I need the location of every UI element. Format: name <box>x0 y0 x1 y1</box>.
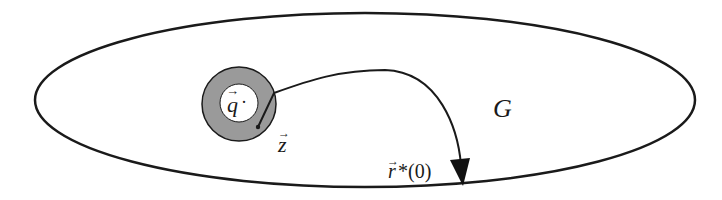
trajectory-curve <box>258 70 461 165</box>
q-dot: · <box>241 92 247 112</box>
z-symbol: z <box>277 132 287 157</box>
r-suffix: *(0) <box>398 160 431 183</box>
start-point-dot <box>256 125 260 129</box>
domain-ellipse <box>35 13 695 187</box>
diagram: → q · → z G → r *(0) <box>0 0 722 200</box>
label-z: → z <box>277 126 290 157</box>
label-r-star-0: → r *(0) <box>387 154 431 183</box>
domain-label-g: G <box>493 94 512 123</box>
q-symbol: q <box>227 92 238 117</box>
r-symbol: r <box>388 160 396 182</box>
ring-annulus <box>202 67 276 141</box>
